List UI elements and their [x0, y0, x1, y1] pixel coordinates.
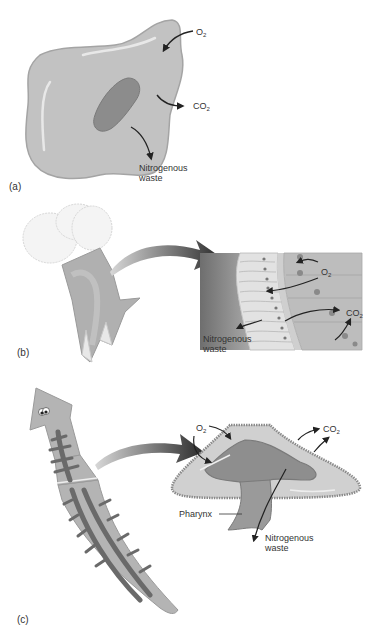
- panel-c-cross-section: [172, 425, 360, 540]
- label-a-co2: CO2: [193, 101, 210, 114]
- panel-b-hydra: [23, 204, 222, 362]
- panel-c-planarian: [30, 388, 204, 614]
- label-a-waste: Nitrogenouswaste: [139, 163, 188, 183]
- panel-label-c: (c): [17, 614, 29, 625]
- label-c-o2: O2: [196, 423, 206, 436]
- panel-a-amoeba: [26, 20, 193, 179]
- panel-label-a: (a): [9, 181, 21, 192]
- label-c-pharynx: Pharynx: [179, 509, 212, 519]
- panel-label-b: (b): [17, 347, 29, 358]
- label-b-co2: CO2: [346, 308, 363, 321]
- label-c-waste: Nitrogenouswaste: [265, 533, 314, 553]
- label-a-o2: O2: [196, 27, 206, 40]
- label-c-co2: CO2: [323, 424, 340, 437]
- label-b-o2: O2: [321, 267, 331, 280]
- diagram-canvas: [0, 0, 376, 633]
- label-b-waste: Nitrogenouswaste: [203, 334, 252, 354]
